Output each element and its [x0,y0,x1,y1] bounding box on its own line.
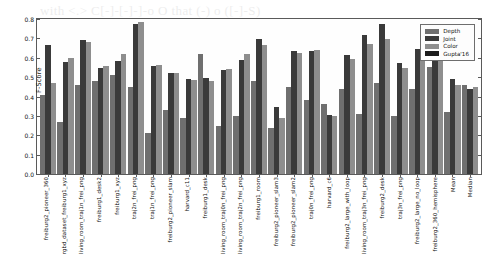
x-axis-label: traj2n_frei_png [126,177,144,269]
bar-group [250,19,268,174]
x-axis-label: Mean [445,177,463,269]
bar-group [180,19,198,174]
bar [121,54,126,174]
bar-group [215,19,233,174]
x-axis-label: harvard_c11 [180,177,198,269]
x-axis-label-text: freiburg1_xyz [115,177,120,215]
y-tick-label: 0.5 [24,74,34,81]
x-axis-label: living_room_traj0n_frei_png [215,177,233,269]
x-axis-label-text: living_room_traj0n_frei_png [221,177,226,254]
x-axis-label-text: freiburg2_large_no_loop [416,177,421,244]
x-axis-label-text: harvard_c11 [186,177,191,212]
legend-label: Gupta'16 [443,51,469,57]
x-axis-label-text: freiburg2_pioneer_slam [168,177,173,243]
bar [209,81,214,174]
bar-group [338,19,356,174]
x-axis-label-text: freiburg2_360_hemisphere [433,177,438,252]
x-axis-label: living_room_traj3n_frei_png [356,177,374,269]
bar [191,80,196,174]
legend-swatch [425,36,439,41]
bar [438,57,443,174]
x-axis-label-text: Mean [451,177,456,192]
bar-group [92,19,110,174]
bar [174,73,179,174]
x-axis-label-text: living_room_traj1n_frei_png [80,177,85,254]
bar [367,44,372,174]
y-tick-label: 0.0 [24,171,34,178]
x-axis-label: freiburg2_pioneer_slam2 [286,177,304,269]
bar-group [74,19,92,174]
bar [51,83,56,174]
x-axis-label: freiburg1_desk2 [91,177,109,269]
y-tick-label: 0.7 [24,35,34,42]
bar [262,45,267,174]
x-axis-label-text: harvard_c6 [327,177,332,208]
bar-group [127,19,145,174]
x-axis-label-text: rgbd_dataset_freiburg1_xyz [62,177,67,254]
bar-group [145,19,163,174]
x-axis-label: harvard_c6 [321,177,339,269]
bar [385,39,390,174]
x-axis-label: freiburg1_desk [197,177,215,269]
bar [332,116,337,174]
bar [86,42,91,174]
y-tick-label: 0.2 [24,132,34,139]
y-tick-label: 0.6 [24,54,34,61]
x-axis-label: freiburg2_large_no_loop [409,177,427,269]
legend-swatch [425,29,439,34]
y-tick-label: 0.8 [24,16,34,23]
bar-group [268,19,286,174]
bar-group [162,19,180,174]
x-axis-label: living_room_traj1n_frei_png [73,177,91,269]
x-axis-label-text: living_room_traj2n_frei_png [239,177,244,254]
bar-group [197,19,215,174]
y-tick-label: 0.1 [24,151,34,158]
x-axis-label-text: freiburg2_pioneer_slam2 [292,177,297,246]
x-axis-label-text: traj1n_frei_png [150,177,155,219]
x-axis-label-text: freiburg1_desk2 [97,177,102,222]
bar-group [233,19,251,174]
plot-area: F-Score 0.00.10.20.30.40.50.60.70.8 Dept… [36,18,482,175]
bar [279,118,284,174]
x-axis-label-text: living_room_traj3n_frei_png [363,177,368,254]
bar [420,60,425,174]
bar [455,85,460,174]
bar [473,87,478,174]
x-axis-label-text: freiburg2_desk [380,177,385,218]
x-axis-label: traj3n_frei_png [392,177,410,269]
bar [350,59,355,174]
x-axis-label: freiburg1_xyz [109,177,127,269]
bar-group [356,19,374,174]
bar [226,69,231,174]
bar [156,65,161,174]
y-tick-label: 0.3 [24,112,34,119]
legend-label: Depth [443,28,460,34]
x-axis-label: Median [463,177,481,269]
bar [138,22,143,174]
bar-group [109,19,127,174]
bar [68,58,73,174]
bar-group [57,19,75,174]
bar [103,66,108,174]
legend-label: Joint [443,36,455,42]
bar-group [285,19,303,174]
x-axis-label: freiburg2_pioneer_slam [162,177,180,269]
bar-group [391,19,409,174]
bar-group [39,19,57,174]
x-axis-label: freiburg2_pioneer_slam3 [268,177,286,269]
bar [402,68,407,174]
bar-groups [37,19,481,174]
y-tick-label: 0.4 [24,93,34,100]
legend-swatch [425,51,439,56]
legend-item: Gupta'16 [425,51,469,57]
x-axis-label: rgbd_dataset_freiburg1_xyz [56,177,74,269]
x-axis-label-text: freiburg2_large_with_loop [345,177,350,249]
legend-item: Color [425,43,469,49]
x-axis-label: freiburg2_360_hemisphere [427,177,445,269]
x-axis-labels: freiburg2_pioneer_360rgbd_dataset_freibu… [36,177,482,269]
x-axis-label-text: freiburg1_desk [203,177,208,218]
x-axis-label-text: freiburg1_room [256,177,261,220]
bar [314,50,319,174]
x-axis-label: freiburg2_large_with_loop [339,177,357,269]
bar [244,54,249,174]
